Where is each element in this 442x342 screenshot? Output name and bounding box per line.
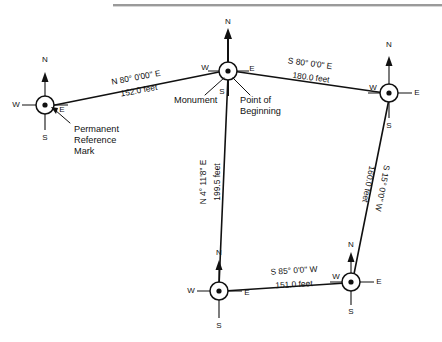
annotation-point-of-beginning-line-2: Beginning [240,106,281,116]
annotation-labels: Permanent Reference Mark Monument Point … [74,95,281,156]
ne-label-north: N [386,40,392,49]
station-permanent-reference-mark[interactable]: N S E W [12,55,68,142]
prm-station-dot [42,102,47,107]
se-label-east: E [376,277,381,286]
pob-station-dot [225,68,230,73]
station-southeast-corner[interactable]: N S E W [330,240,382,316]
se-station-dot [348,279,353,284]
annotation-point-of-beginning-line-1: Point of [240,95,272,105]
pob-label-south: S [219,87,224,96]
pob-north-arrow-icon [224,28,232,39]
ne-station-dot [386,90,391,95]
se-label-north: N [348,240,354,249]
station-point-of-beginning[interactable]: N S E W [201,17,254,96]
distance-label-course-5: 199.5 feet [212,163,222,201]
pob-label-east: E [249,64,254,73]
station-southwest-corner[interactable]: N S E W [187,248,249,330]
pob-label-west: W [201,63,209,72]
prm-label-south: S [42,133,47,142]
distance-label-course-3: 160.0 feet [360,165,377,204]
bearing-label-course-5: N 4° 11'8" E [198,159,208,204]
course-labels: N 80° 0'00" E 152.0 feet S 80° 0'0" E 18… [110,55,392,290]
ne-label-south: S [386,121,391,130]
top-divider-rule [113,4,442,6]
sw-label-south: S [216,321,221,330]
bearing-label-course-4: S 85° 0'0" W [270,264,318,277]
prm-label-north: N [42,55,48,64]
sw-label-west: W [187,286,195,295]
se-label-south: S [348,307,353,316]
se-north-arrow-icon [348,252,355,262]
annotation-permanent-reference-mark-line-1: Permanent [74,124,119,134]
distance-label-course-4: 151.0 feet [275,278,313,290]
survey-plat-svg: N S E W N S E W N S E W [0,0,442,342]
prm-label-east: E [59,105,64,114]
distance-label-course-1: 152.0 feet [120,82,159,99]
leader-point-of-beginning [233,78,250,95]
sw-station-dot [216,288,221,293]
survey-diagram-canvas: N S E W N S E W N S E W [0,0,442,342]
annotation-monument-line-1: Monument [174,95,218,105]
se-label-west: W [332,272,340,281]
annotation-permanent-reference-mark-line-2: Reference [74,135,116,145]
station-northeast-corner[interactable]: N S E W [368,40,420,130]
sw-north-arrow-icon [216,260,223,270]
sw-label-east: E [244,288,249,297]
ne-label-west: W [369,83,377,92]
prm-north-arrow-icon [42,72,49,82]
sw-label-north: N [216,248,222,257]
annotation-permanent-reference-mark-line-3: Mark [74,146,95,156]
bearing-label-course-2: S 80° 0'0" E [287,55,333,71]
ne-label-east: E [414,88,419,97]
ne-north-arrow-icon [386,56,393,66]
prm-label-west: W [12,100,20,109]
pob-label-north: N [225,17,231,26]
